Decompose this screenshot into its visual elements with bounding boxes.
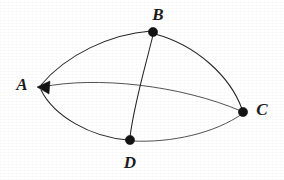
vertex-marker-c-dot xyxy=(238,107,247,116)
edge-b-c xyxy=(155,34,242,109)
edge-a-d xyxy=(41,90,128,140)
graph-diagram-figure: A B C D xyxy=(0,0,284,180)
vertex-marker-b-dot xyxy=(148,27,157,36)
edge-a-b xyxy=(41,31,151,85)
graph-diagram-canvas xyxy=(0,0,284,180)
vertex-label-a: A xyxy=(16,76,28,93)
vertex-label-b: B xyxy=(152,6,164,23)
edge-group xyxy=(41,31,242,141)
edge-b-d xyxy=(130,35,153,137)
vertex-label-d: D xyxy=(124,154,136,171)
vertex-label-c: C xyxy=(256,101,268,118)
edge-d-c xyxy=(132,114,242,141)
vertex-marker-d-dot xyxy=(125,135,134,144)
vertex-marker-a-arrowhead xyxy=(37,81,50,94)
edge-a-c xyxy=(42,82,241,111)
